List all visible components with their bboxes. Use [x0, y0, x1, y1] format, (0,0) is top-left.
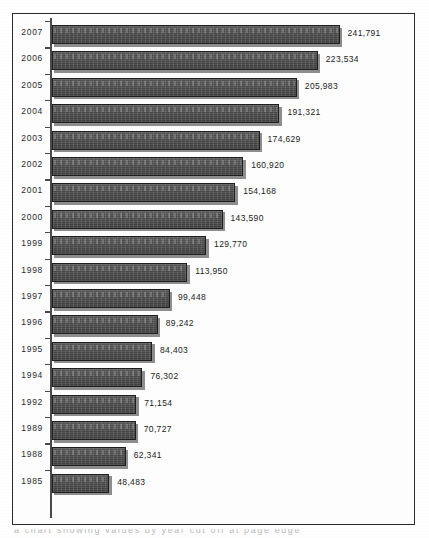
bar-row: 2006223,534 — [13, 47, 414, 73]
axis-tick — [45, 127, 51, 128]
bar-row: 2002160,920 — [13, 153, 414, 179]
bar-value-label: 129,770 — [214, 239, 247, 249]
category-label: 2002 — [13, 159, 43, 169]
bar-body — [52, 342, 153, 361]
category-label: 1989 — [13, 423, 43, 433]
bar-body — [52, 210, 223, 229]
bar-highlight — [54, 239, 205, 244]
bar — [52, 368, 143, 387]
bar-value-label: 76,302 — [150, 371, 178, 381]
bar — [52, 447, 126, 466]
bar-body — [52, 51, 318, 70]
bar — [52, 263, 188, 282]
bar-value-label: 48,483 — [117, 477, 145, 487]
bar-highlight — [54, 292, 168, 297]
axis-tick — [45, 232, 51, 233]
category-label: 1998 — [13, 265, 43, 275]
bar-highlight — [54, 186, 234, 191]
axis-tick — [45, 311, 51, 312]
axis-tick — [45, 153, 51, 154]
axis-tick — [45, 179, 51, 180]
bar — [52, 51, 318, 70]
bar-body — [52, 104, 280, 123]
bar-body — [52, 236, 207, 255]
bar-highlight — [54, 213, 221, 218]
bar-row: 199689,242 — [13, 311, 414, 337]
bar — [52, 104, 280, 123]
bar-body — [52, 315, 158, 334]
category-label: 2004 — [13, 106, 43, 116]
bar-body — [52, 421, 136, 440]
bar — [52, 183, 236, 202]
category-label: 2000 — [13, 212, 43, 222]
bar-highlight — [54, 450, 124, 455]
category-label: 2006 — [13, 53, 43, 63]
bar-value-label: 205,983 — [305, 81, 338, 91]
category-label: 1985 — [13, 476, 43, 486]
category-label: 1992 — [13, 397, 43, 407]
bar — [52, 236, 207, 255]
bar-row: 198862,341 — [13, 443, 414, 469]
plot-area: 2007241,7912006223,5342005205,9832004191… — [13, 14, 414, 524]
bar-body — [52, 157, 244, 176]
category-label: 1995 — [13, 344, 43, 354]
bar — [52, 25, 340, 44]
bar-row: 2000143,590 — [13, 206, 414, 232]
bar-highlight — [54, 134, 258, 139]
axis-tick — [45, 470, 51, 471]
bar-body — [52, 263, 188, 282]
bar — [52, 421, 136, 440]
axis-tick — [45, 47, 51, 48]
bar-highlight — [54, 345, 151, 350]
bar-highlight — [54, 28, 338, 33]
bar-row: 198548,483 — [13, 470, 414, 496]
bar-value-label: 223,534 — [326, 54, 359, 64]
bar-value-label: 174,629 — [268, 134, 301, 144]
bar-value-label: 89,242 — [166, 318, 194, 328]
bar-value-label: 71,154 — [144, 398, 172, 408]
bar-value-label: 143,590 — [231, 213, 264, 223]
bar-highlight — [54, 477, 108, 482]
chart-frame: 2007241,7912006223,5342005205,9832004191… — [12, 13, 415, 525]
category-label: 2005 — [13, 80, 43, 90]
bar-body — [52, 25, 340, 44]
bar-row: 2005205,983 — [13, 74, 414, 100]
bar-row: 199271,154 — [13, 391, 414, 417]
bar-value-label: 113,950 — [195, 266, 228, 276]
category-label: 1999 — [13, 238, 43, 248]
bar-row: 199584,403 — [13, 338, 414, 364]
axis-tick — [45, 443, 51, 444]
bar-body — [52, 447, 126, 466]
bar-highlight — [54, 160, 242, 165]
bar-value-label: 62,341 — [134, 450, 162, 460]
axis-tick — [45, 285, 51, 286]
bar-value-label: 154,168 — [243, 186, 276, 196]
bar-highlight — [54, 54, 316, 59]
bar-value-label: 70,727 — [144, 424, 172, 434]
axis-tick — [45, 21, 51, 22]
bar-body — [52, 131, 260, 150]
bar-row: 199799,448 — [13, 285, 414, 311]
bar-row: 2003174,629 — [13, 127, 414, 153]
bar-body — [52, 368, 143, 387]
category-label: 2001 — [13, 185, 43, 195]
bar — [52, 131, 260, 150]
bar-row: 2001154,168 — [13, 179, 414, 205]
bar-body — [52, 289, 170, 308]
axis-tick — [45, 364, 51, 365]
category-label: 2007 — [13, 27, 43, 37]
bar — [52, 395, 137, 414]
axis-tick — [45, 74, 51, 75]
bar-highlight — [54, 424, 134, 429]
bar-highlight — [54, 266, 186, 271]
bar-row: 198970,727 — [13, 417, 414, 443]
axis-tick — [45, 338, 51, 339]
bar-body — [52, 183, 236, 202]
bar-highlight — [54, 318, 156, 323]
axis-tick — [45, 259, 51, 260]
bar — [52, 78, 297, 97]
bar-value-label: 160,920 — [251, 160, 284, 170]
bar-row: 1999129,770 — [13, 232, 414, 258]
bar-row: 2007241,791 — [13, 21, 414, 47]
bar-row: 199476,302 — [13, 364, 414, 390]
